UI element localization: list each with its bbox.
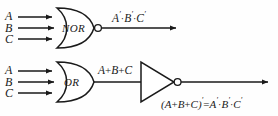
nor-input-wires	[18, 17, 54, 39]
out-expr-var-c2: C	[233, 98, 240, 110]
nor-gate-label: NOR	[62, 23, 85, 34]
or-input-label-c: C	[5, 87, 13, 99]
logic-diagram-figure: A B C NOR A′·B′·C′ A B C OR A+B+C (A+B+C…	[0, 0, 278, 116]
or-expr-var-a: A	[98, 64, 105, 76]
nor-expr-prime-c: ′	[144, 10, 146, 19]
out-expr-var-c: C	[191, 98, 198, 110]
or-expr-var-c: C	[125, 64, 133, 76]
inverter-triangle	[141, 62, 174, 102]
nor-expr-var-a: A	[112, 12, 119, 24]
or-gate-label: OR	[64, 77, 79, 88]
nor-output-expression: A′·B′·C′	[112, 11, 146, 24]
inverter-output-expression: (A+B+C)′=A′·B′·C′	[161, 97, 242, 110]
nor-circuit-group	[18, 8, 176, 48]
or-inverter-circuit-group	[18, 62, 268, 102]
nor-output-bubble	[95, 25, 102, 32]
nor-expr-var-c: C	[136, 12, 144, 24]
or-intermediate-expression: A+B+C	[98, 65, 132, 77]
out-expr-prime-c: ′	[241, 96, 243, 105]
or-input-wires	[18, 71, 54, 93]
inverter-output-bubble	[174, 79, 181, 86]
nor-input-label-c: C	[5, 33, 13, 45]
